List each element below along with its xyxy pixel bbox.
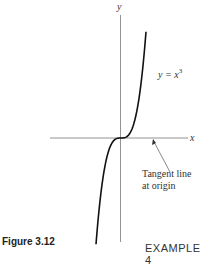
curve-label: y = x3 <box>157 67 183 80</box>
example-heading: EXAMPLE 4 <box>145 242 205 266</box>
x-axis-label: x <box>189 132 195 143</box>
annotation-text-line2: at origin <box>142 180 176 191</box>
y-axis-label: y <box>116 1 122 12</box>
figure-caption: Figure 3.12 <box>2 236 55 247</box>
annotation-text-line1: Tangent line <box>142 168 192 179</box>
